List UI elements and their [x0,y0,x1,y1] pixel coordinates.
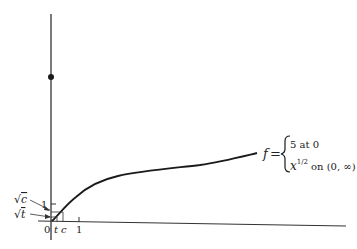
x-axis [38,221,346,226]
sqrt-c-label: √c [14,193,27,206]
origin-label: 0 [44,224,50,235]
case-1: 5 at 0 [290,139,319,150]
function-name: f [262,146,270,161]
x-tick-label-1: 1 [76,224,82,235]
x-tick-label-c: c [61,224,67,235]
case-2: x1/2on (0, ∞) [290,158,356,173]
sqrt-t-label: √t [14,208,26,221]
x-tick-label-t: t [54,224,59,235]
left-brace [281,136,290,172]
function-graph: 1 √c √t 0 t c 1 f = 5 at 0 x1/2on (0, ∞) [0,0,357,249]
sqrt-curve [52,153,257,221]
isolated-point [48,74,54,80]
arrowhead-icon [45,214,51,219]
equals-sign: = [270,146,281,161]
